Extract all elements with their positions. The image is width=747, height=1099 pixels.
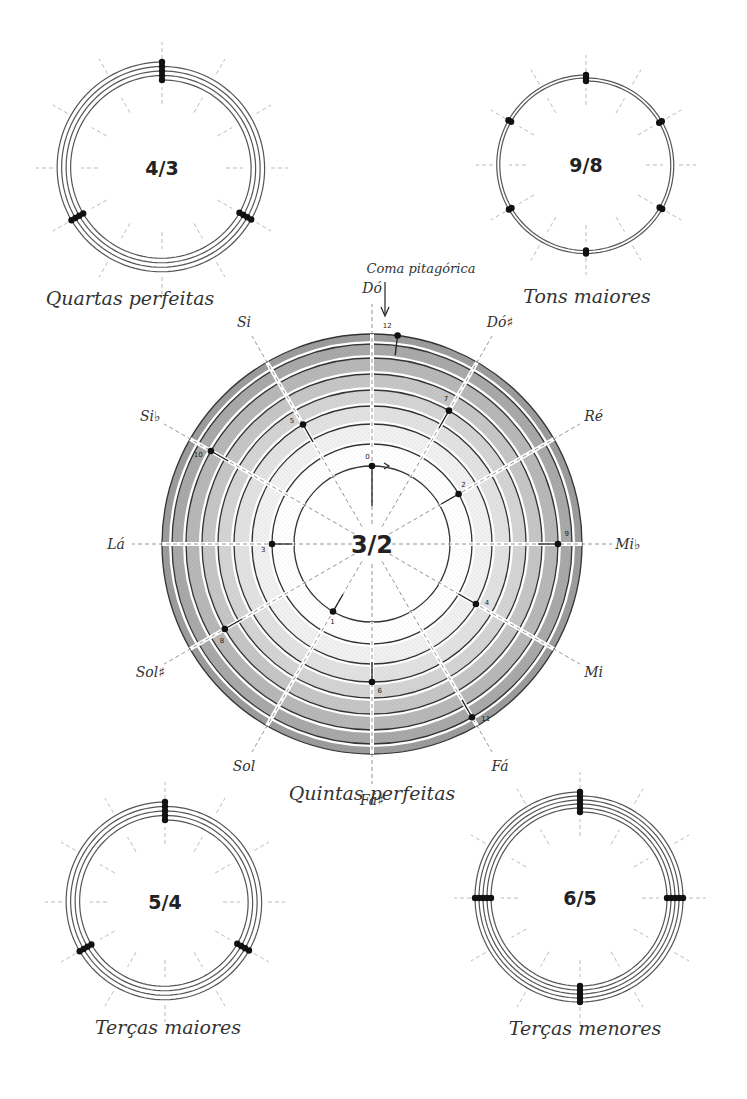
spoke-line [635,789,644,804]
spoke-line [100,931,115,940]
spoke-line [100,865,115,874]
fifth-step-dot [469,714,476,721]
major-tones-ratio: 9/8 [569,154,602,176]
spoke-line [491,110,506,119]
interval-dot [583,250,589,256]
spoke-line [611,830,620,845]
spoke-line [471,953,486,962]
fifth-step-dot [269,541,276,548]
minor-thirds-ratio: 6/5 [563,887,596,909]
note-label: Ré [583,408,603,424]
step-number: 6 [377,687,382,695]
step-number: 12 [383,322,392,330]
step-number: 9 [564,530,568,538]
spoke-line [99,59,108,74]
spoke-line [53,105,68,114]
minor-thirds-caption: Terças menores [509,1017,662,1039]
spoke-line [491,212,506,221]
major-tones-caption: Tons maiores [523,285,651,307]
spoke-line [217,798,226,813]
spoke-line [217,128,232,137]
note-label: Sol♯ [136,664,165,680]
spoke-line [634,929,649,938]
interval-dot [248,216,254,222]
interval-dot [76,948,82,954]
interval-dot [583,72,589,78]
note-label: Fá♯ [359,792,384,808]
fifth-step-dot [330,608,337,615]
interval-dot [680,895,686,901]
fifth-step-dot [369,679,376,686]
step-number: 2 [461,481,465,489]
interval-dot [159,59,165,65]
spoke-line [194,952,203,967]
spoke-line [105,798,114,813]
step-number: 8 [220,637,224,645]
spoke-line [512,859,527,868]
interval-dot [472,895,478,901]
spoke-line [633,246,642,261]
step-number: 10 [194,451,203,459]
fifth-step-dot [446,407,453,414]
note-label: Dó♯ [486,314,513,330]
spoke-line [519,127,534,136]
note-label: Fá [490,758,508,774]
spoke-line [256,105,271,114]
spoke-line [517,992,526,1007]
fifth-step-dot [300,421,307,428]
spoke-line [638,195,653,204]
spoke-line [194,98,203,113]
interval-dot [659,118,665,124]
spoke-line [53,223,68,232]
fourths-ratio: 4/3 [145,157,178,179]
spoke-line [541,830,550,845]
spoke-line [61,954,76,963]
note-label: Si [237,314,251,330]
spoke-line [217,262,226,277]
fifth-step-dot [369,463,376,470]
note-label: Sol [233,758,256,774]
spoke-line [217,59,226,74]
spoke-line [634,859,649,868]
spoke-line [254,954,269,963]
fourths-caption: Quartas perfeitas [46,287,215,309]
interval-dot [577,999,583,1005]
spoke-line [256,223,271,232]
step-number: 3 [261,546,265,554]
spoke-line [215,865,230,874]
spoke-line [217,991,226,1006]
circle-of-fifths-illustration: 4/3 Quartas perfeitas 9/8 Tons maiores 5… [0,0,747,1099]
spoke-line [194,223,203,238]
spoke-line [128,952,137,967]
spoke-line [254,842,269,851]
note-label: Si♭ [140,408,161,424]
spoke-line [519,195,534,204]
spoke-line [616,98,625,113]
spoke-line [122,223,131,238]
fifth-step-dot [555,541,562,548]
spoke-line [61,842,76,851]
spoke-line [531,246,540,261]
step-number: 5 [290,417,294,425]
interval-dot [68,217,74,223]
spoke-line [531,70,540,85]
spoke-line [122,98,131,113]
fifth-step-dot [455,491,462,498]
step-number: 7 [444,395,448,403]
note-label: Dó [361,280,382,296]
interval-dot [246,947,252,953]
step-number: 4 [485,599,490,607]
fifths-ratio: 3/2 [351,531,393,559]
fifth-step-dot [208,448,215,455]
spoke-line [215,931,230,940]
spoke-line [512,929,527,938]
note-label: Mi [583,664,603,680]
spoke-line [667,110,682,119]
spoke-line [471,835,486,844]
spoke-line [616,217,625,232]
spoke-line [99,262,108,277]
pythagorean-comma-label: Coma pitagórica [367,261,476,276]
spoke-line [635,992,644,1007]
interval-dot [162,799,168,805]
interval-dot [577,789,583,795]
